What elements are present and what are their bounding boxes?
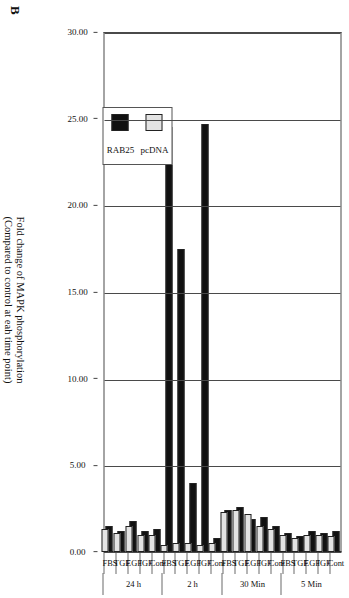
group-label-text: 2 h xyxy=(187,579,198,589)
value-axis-title: Fold change of MAPK phosphorylation (Com… xyxy=(2,26,25,574)
gridline-15.00 xyxy=(104,293,340,294)
tick-mark xyxy=(93,552,97,553)
legend-swatch-rab25 xyxy=(112,114,129,131)
tick-label: 10.00 xyxy=(67,374,87,384)
bar-pcdna-14 xyxy=(160,545,167,552)
group-label-text: 5 Min xyxy=(301,579,322,589)
legend-item-rab25: RAB25 xyxy=(103,108,137,166)
gridline-25.00 xyxy=(104,120,340,121)
tick-10.00: 10.00 xyxy=(72,369,97,389)
tick-15.00: 15.00 xyxy=(72,282,97,302)
tick-30.00: 30.00 xyxy=(72,22,97,42)
bar-rab25-12 xyxy=(189,483,196,552)
bar-pcdna-5 xyxy=(268,529,275,552)
tick-mark xyxy=(93,118,97,119)
bar-rab25-11 xyxy=(201,124,208,552)
plot-area: pcDNA RAB25 xyxy=(103,32,341,552)
value-axis-ticks: 0.005.0010.0015.0020.0025.0030.00 xyxy=(63,32,97,552)
bar-rab25-14 xyxy=(165,127,172,552)
bar-pcdna-10 xyxy=(208,543,215,552)
tick-mark xyxy=(93,292,97,293)
legend-swatch-pcdna xyxy=(146,114,163,131)
tick-label: 20.00 xyxy=(67,200,87,210)
tick-mark xyxy=(93,465,97,466)
bar-pcdna-15 xyxy=(149,535,156,552)
chart-figure: B Fold change of MAPK phosphorylation (C… xyxy=(0,0,349,598)
group-separator-3 xyxy=(102,573,103,595)
group-label-3: 24 h xyxy=(103,573,163,595)
value-axis-title-line-1: Fold change of MAPK phosphorylation xyxy=(14,26,26,574)
bar-pcdna-2 xyxy=(303,535,310,552)
group-label-0: 5 Min xyxy=(282,573,342,595)
bar-pcdna-1 xyxy=(315,535,322,552)
tick-label: 15.00 xyxy=(67,287,87,297)
bar-pcdna-16 xyxy=(137,535,144,552)
tick-label: 0.00 xyxy=(69,547,85,557)
tick-25.00: 25.00 xyxy=(72,109,97,129)
bar-pcdna-6 xyxy=(256,526,263,552)
tick-mark xyxy=(93,205,97,206)
legend-item-pcdna: pcDNA xyxy=(137,108,171,166)
bar-pcdna-9 xyxy=(220,512,227,552)
tick-mark xyxy=(93,378,97,379)
bar-pcdna-8 xyxy=(232,510,239,552)
bar-pcdna-4 xyxy=(279,535,286,552)
group-label-text: 30 Min xyxy=(239,579,264,589)
gridline-20.00 xyxy=(104,206,340,207)
value-axis-title-line-2: (Compared to control at eah time point) xyxy=(2,26,14,574)
figure-page: B Fold change of MAPK phosphorylation (C… xyxy=(0,0,349,598)
tick-label: 5.00 xyxy=(69,460,85,470)
tick-0.00: 0.00 xyxy=(72,544,97,560)
gridline-10.00 xyxy=(104,380,340,381)
tick-5.00: 5.00 xyxy=(72,457,97,473)
chart-legend: pcDNA RAB25 xyxy=(102,107,172,165)
bar-rab25-13 xyxy=(177,249,184,552)
group-axis-labels: 5 Min30 Min2 h24 h xyxy=(103,573,341,595)
bar-pcdna-17 xyxy=(125,526,132,552)
panel-letter: B xyxy=(6,6,22,15)
tick-label: 30.00 xyxy=(67,27,87,37)
bar-pcdna-11 xyxy=(196,545,203,552)
group-label-1: 30 Min xyxy=(222,573,282,595)
group-label-2: 2 h xyxy=(163,573,223,595)
category-axis-labels: ContIGFEGFTGFFBSContIGFEGFTGFFBSContIGFE… xyxy=(103,552,341,573)
gridline-5.00 xyxy=(104,466,340,467)
legend-label-pcdna: pcDNA xyxy=(140,145,168,155)
bar-pcdna-7 xyxy=(244,514,251,552)
legend-label-rab25: RAB25 xyxy=(106,145,134,155)
bar-pcdna-0 xyxy=(327,536,334,552)
tick-label: 25.00 xyxy=(67,114,87,124)
group-label-text: 24 h xyxy=(125,579,140,589)
gridline-30.00 xyxy=(104,33,340,34)
bar-pcdna-13 xyxy=(172,543,179,552)
bar-pcdna-3 xyxy=(291,538,298,552)
category-label-text: FBS xyxy=(102,559,117,568)
bar-pcdna-19 xyxy=(101,529,108,552)
tick-20.00: 20.00 xyxy=(72,195,97,215)
bar-pcdna-18 xyxy=(113,533,120,552)
tick-mark xyxy=(93,32,97,33)
bar-pcdna-12 xyxy=(184,543,191,552)
category-label-19: FBS xyxy=(103,553,115,574)
